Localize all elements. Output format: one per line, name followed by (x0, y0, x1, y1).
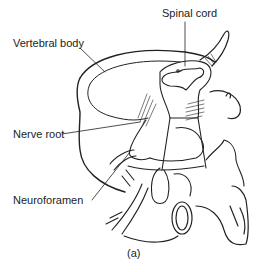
vertebral-body (77, 50, 215, 192)
lower-body (124, 186, 248, 245)
posterior-process (200, 31, 240, 118)
nerve-root (138, 94, 204, 126)
label-vertebral-body: Vertebral body (13, 38, 84, 49)
pedicle-lamina (128, 120, 244, 204)
nerve-branches (106, 150, 148, 234)
figure-caption: (a) (127, 248, 140, 259)
spinal-cord (160, 61, 211, 170)
label-nerve-root: Nerve root (13, 129, 64, 140)
label-spinal-cord: Spinal cord (162, 8, 217, 19)
label-neuroforamen: Neuroforamen (13, 195, 83, 206)
